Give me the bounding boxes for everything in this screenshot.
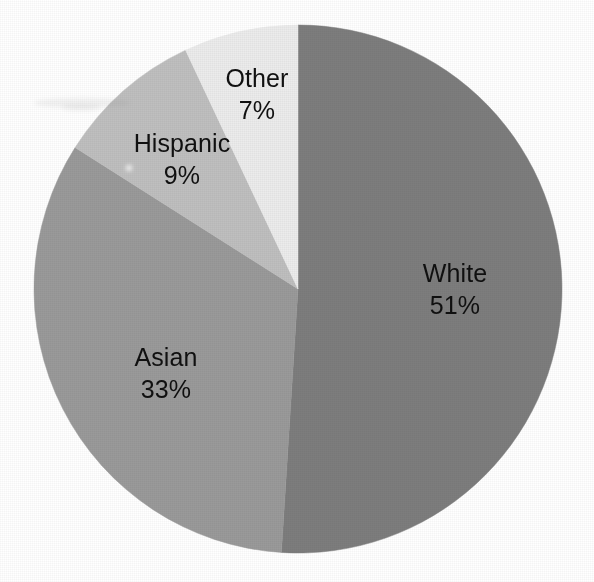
- pie-label-white-value: 51%: [423, 289, 487, 321]
- pie-label-white-name: White: [423, 258, 487, 290]
- pie-label-asian: Asian 33%: [134, 342, 197, 405]
- pie-label-other-value: 7%: [225, 94, 288, 126]
- pie-label-asian-value: 33%: [134, 373, 197, 405]
- pie-slice-white: [281, 25, 562, 553]
- pie-label-asian-name: Asian: [134, 342, 197, 374]
- pie-chart: White 51% Asian 33% Hispanic 9% Other 7%: [0, 0, 594, 582]
- pie-chart-canvas: [0, 0, 594, 582]
- pie-label-hispanic-name: Hispanic: [134, 128, 231, 160]
- pie-label-other: Other 7%: [225, 63, 288, 126]
- pie-label-other-name: Other: [225, 63, 288, 95]
- pie-label-hispanic-value: 9%: [134, 159, 231, 191]
- pie-label-white: White 51%: [423, 258, 487, 321]
- pie-label-hispanic: Hispanic 9%: [134, 128, 231, 191]
